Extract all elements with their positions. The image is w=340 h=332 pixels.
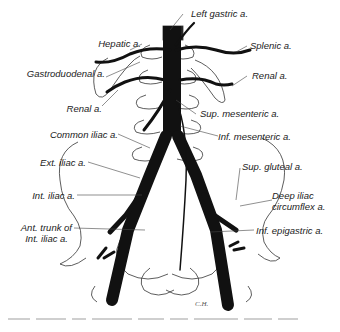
label-renal-right: Renal a. <box>60 103 102 114</box>
label-common-iliac: Common iliac a. <box>20 129 118 140</box>
label-ant-trunk-2: Int. iliac a. <box>4 233 68 244</box>
arteries <box>96 23 250 305</box>
cropped-caption-line <box>8 318 332 322</box>
label-sup-gluteal: Sup. gluteal a. <box>242 161 303 172</box>
label-gastroduodenal: Gastroduodenal a. <box>10 68 105 79</box>
label-inf-mesenteric: Inf. mesenteric a. <box>218 131 291 142</box>
label-sup-mesenteric: Sup. mesenteric a. <box>200 108 279 119</box>
label-left-gastric: Left gastric a. <box>191 8 248 19</box>
label-ext-iliac: Ext. iliac a. <box>20 157 86 168</box>
label-hepatic: Hepatic a. <box>88 38 141 49</box>
label-inf-epigastric: Inf. epigastric a. <box>256 225 323 236</box>
label-splenic: Splenic a. <box>250 40 292 51</box>
label-deep-iliac-circumflex-1: Deep iliac <box>272 190 314 201</box>
label-ant-trunk-1: Ant. trunk of <box>4 222 72 233</box>
label-int-iliac: Int. iliac a. <box>20 190 75 201</box>
artist-signature: C.H. <box>195 300 208 308</box>
label-deep-iliac-circumflex-2: circumflex a. <box>272 201 325 212</box>
label-renal-left: Renal a. <box>252 70 287 81</box>
